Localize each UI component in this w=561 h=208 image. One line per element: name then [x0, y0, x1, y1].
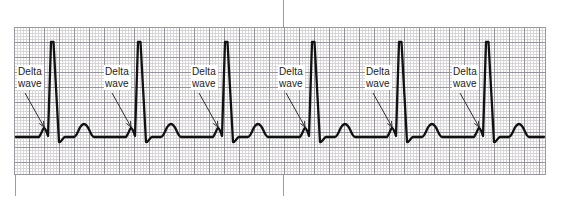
delta-wave-arrow — [106, 87, 137, 133]
delta-wave-arrow — [367, 87, 398, 133]
ecg-figure: DeltawaveDeltawaveDeltawaveDeltawaveDelt… — [0, 0, 561, 208]
delta-wave-arrow — [193, 87, 224, 133]
delta-wave-label-line1: Delta — [192, 66, 216, 78]
delta-wave-arrow — [454, 87, 485, 133]
delta-wave-arrow — [19, 87, 50, 133]
delta-wave-label-line1: Delta — [18, 66, 42, 78]
delta-wave-label-line1: Delta — [453, 66, 477, 78]
delta-wave-label-line1: Delta — [105, 66, 129, 78]
delta-wave-arrow — [280, 87, 311, 133]
delta-wave-label-line1: Delta — [366, 66, 390, 78]
delta-wave-label-line1: Delta — [279, 66, 303, 78]
